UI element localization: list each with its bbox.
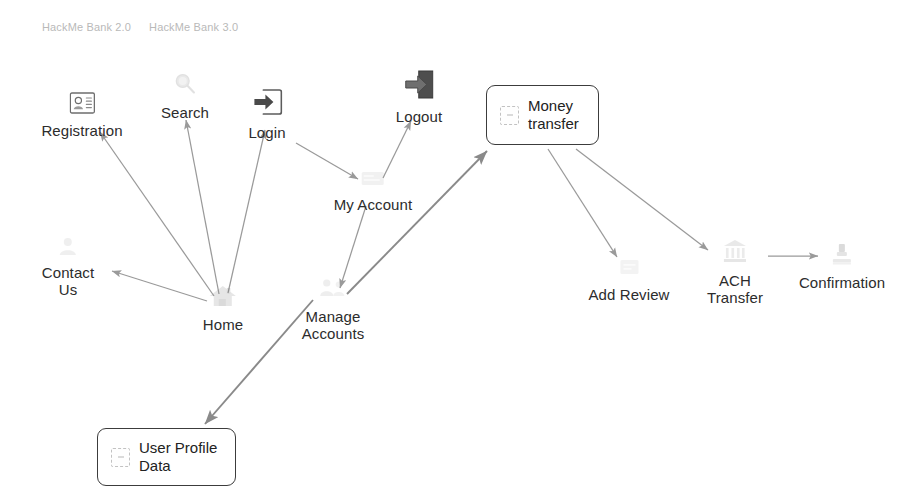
edge-moneytransfer-achtransfer	[576, 149, 708, 250]
node-user-profile-data-label: User Profile Data	[139, 439, 217, 475]
node-manage-accounts[interactable]: Manage Accounts	[302, 276, 365, 343]
node-confirmation-label: Confirmation	[799, 274, 885, 292]
faded-icon	[618, 258, 640, 283]
node-add-review[interactable]: Add Review	[588, 258, 669, 303]
node-contact-us-label: Contact Us	[42, 264, 94, 299]
magnifier-icon	[173, 72, 197, 101]
node-login[interactable]: Login	[248, 88, 285, 141]
sitemap-diagram: HackMe Bank 2.0 HackMe Bank 3.0	[0, 0, 920, 503]
tab-hackme-bank-2[interactable]: HackMe Bank 2.0	[42, 21, 131, 33]
node-money-transfer-label: Money transfer	[528, 97, 579, 133]
edge-home-contactus	[112, 271, 207, 301]
edge-moneytransfer-addreview	[548, 149, 617, 257]
edge-home-login	[228, 130, 265, 293]
node-search-label: Search	[161, 104, 209, 122]
node-my-account[interactable]: My Account	[334, 168, 413, 213]
logout-arrow-icon	[404, 70, 434, 105]
node-home[interactable]: Home	[203, 284, 243, 333]
faded-bank-icon	[722, 238, 748, 269]
node-money-transfer[interactable]: Money transfer	[486, 85, 599, 145]
faded-people-icon	[318, 276, 348, 305]
node-ach-transfer-label: ACH Transfer	[707, 272, 763, 307]
faded-icon	[360, 168, 386, 193]
node-ach-transfer[interactable]: ACH Transfer	[707, 238, 763, 307]
node-login-label: Login	[248, 124, 285, 142]
node-search[interactable]: Search	[161, 72, 209, 121]
header-tabs: HackMe Bank 2.0 HackMe Bank 3.0	[42, 21, 238, 33]
node-confirmation[interactable]: Confirmation	[799, 242, 885, 291]
faded-seal-icon	[830, 242, 854, 271]
node-home-label: Home	[203, 316, 243, 334]
node-manage-accounts-label: Manage Accounts	[302, 308, 365, 343]
id-card-icon	[69, 92, 95, 119]
login-arrow-icon	[252, 88, 282, 121]
broken-image-icon	[111, 448, 130, 467]
faded-house-icon	[208, 284, 238, 313]
node-registration-label: Registration	[41, 122, 122, 140]
node-registration[interactable]: Registration	[41, 92, 122, 139]
broken-image-icon	[500, 106, 519, 125]
faded-person-icon	[57, 236, 79, 261]
edge-home-search	[186, 120, 219, 294]
tab-hackme-bank-3[interactable]: HackMe Bank 3.0	[149, 21, 238, 33]
node-add-review-label: Add Review	[588, 286, 669, 304]
edge-home-registration	[100, 132, 214, 296]
node-logout-label: Logout	[396, 108, 442, 126]
node-my-account-label: My Account	[334, 196, 413, 214]
node-contact-us[interactable]: Contact Us	[42, 236, 94, 299]
node-user-profile-data[interactable]: User Profile Data	[97, 428, 236, 486]
node-logout[interactable]: Logout	[396, 70, 442, 125]
